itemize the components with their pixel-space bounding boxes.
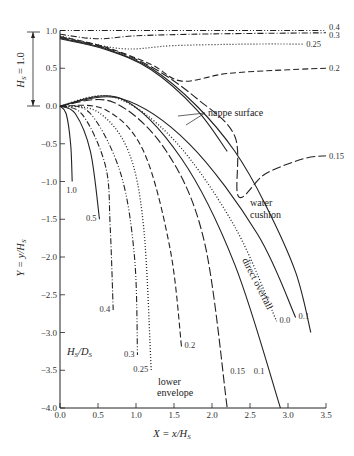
x-tick-label: 0.0 xyxy=(54,410,66,420)
lower-nappe-label: 0.25 xyxy=(133,364,148,374)
upper-nappe-curve-0.3 xyxy=(60,33,326,39)
axes: 1.00.50.0−0.5−1.0−1.5−2.0−2.5−3.0−3.5−4.… xyxy=(41,26,332,421)
x-axis-title: X = x/HS xyxy=(152,428,191,441)
x-tick-label: 3.0 xyxy=(282,410,294,420)
y-tick-label: −2.0 xyxy=(41,252,58,262)
x-tick-label: 2.5 xyxy=(244,410,256,420)
x-tick-label: 0.5 xyxy=(92,410,104,420)
water-cushion-label: water xyxy=(250,197,273,208)
lower-nappe-curve-0.2 xyxy=(60,105,182,347)
lower-nappe-label: 0.1 xyxy=(299,311,310,321)
lower-nappe-label: 0.15 xyxy=(230,366,245,376)
lower-nappe-curve-0.25 xyxy=(60,106,151,370)
lower-nappe-label: 0.3 xyxy=(124,349,135,359)
upper-nappe-curve-0.15 xyxy=(60,37,326,197)
y-axis-title: Y = y/HS xyxy=(15,239,28,276)
water-cushion-label-2: cushion xyxy=(250,209,281,220)
curves xyxy=(60,31,326,409)
y-tick-label: −1.0 xyxy=(41,177,58,187)
lower-nappe-curve-0.15 xyxy=(60,100,227,408)
lower-nappe-curve-0.3 xyxy=(60,106,138,355)
water-cushion-surface xyxy=(60,38,311,333)
x-tick-label: 2.0 xyxy=(206,410,218,420)
lower-nappe-label: 0.5 xyxy=(86,213,97,223)
y-tick-label: −0.5 xyxy=(41,139,58,149)
lower-nappe-label: 0.1 xyxy=(254,366,265,376)
x-tick-label: 3.5 xyxy=(320,410,332,420)
lower-nappe-label: 1.0 xyxy=(66,185,77,195)
upper-nappe-label: 0.15 xyxy=(329,151,344,161)
y-tick-label: −3.5 xyxy=(41,365,58,375)
direct-overfall-label: direct overfall xyxy=(240,256,275,311)
nappe-surface-annotation: nappe surface xyxy=(178,107,264,125)
upper-nappe-label: 0.2 xyxy=(329,63,340,73)
upper-nappe-curve-0.2 xyxy=(60,37,326,82)
lower-envelope-label-2: envelope xyxy=(157,387,194,398)
y-tick-label: 1.0 xyxy=(46,26,58,36)
lower-nappe-label: 0.4 xyxy=(100,304,111,314)
head-label: HS = 1.0 xyxy=(15,52,28,88)
x-tick-label: 1.0 xyxy=(130,410,142,420)
y-tick-label: −3.0 xyxy=(41,328,58,338)
head-dimension-arrow xyxy=(27,32,40,106)
svg-text:nappe surface: nappe surface xyxy=(208,107,264,118)
spillway-nappe-chart: 1.00.50.0−0.5−1.0−1.5−2.0−2.5−3.0−3.5−4.… xyxy=(0,0,354,456)
lower-envelope-label: lower xyxy=(158,376,181,387)
lower-nappe-curve-0.0 xyxy=(60,96,277,322)
x-tick-label: 1.5 xyxy=(168,410,180,420)
upper-nappe-label: 0.3 xyxy=(329,30,340,40)
y-tick-label: −2.5 xyxy=(41,290,58,300)
y-tick-label: 0.0 xyxy=(46,101,58,111)
upper-nappe-label: 0.25 xyxy=(306,39,321,49)
lower-nappe-curve-0.5 xyxy=(60,106,100,219)
parameter-label: HS/DS xyxy=(66,346,93,359)
lower-nappe-label: 0.0 xyxy=(280,315,291,325)
y-tick-label: 0.5 xyxy=(46,63,58,73)
lower-nappe-label: 0.2 xyxy=(185,340,196,350)
y-tick-label: −1.5 xyxy=(41,214,58,224)
